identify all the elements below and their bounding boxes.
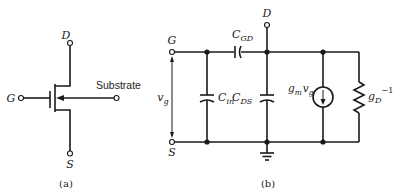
gm-vg-label: gmvg — [288, 82, 314, 97]
source-terminal — [68, 151, 73, 156]
substrate-label: Substrate — [96, 79, 141, 91]
substrate-terminal — [114, 96, 119, 101]
drain-label-b: D — [262, 7, 272, 20]
caption-a: (a) — [59, 178, 73, 189]
ground-icon — [260, 153, 274, 160]
gd-inverse-label: gD−1 — [368, 86, 393, 105]
source-terminal-b — [170, 140, 175, 145]
drain-terminal — [68, 41, 73, 46]
cgd-plate-right — [240, 46, 242, 58]
gate-label-b: G — [168, 34, 177, 47]
arrow-up-icon — [170, 56, 174, 62]
mosfet-figure: D G S Substrate (a) G S — [0, 0, 395, 196]
arrow-icon — [56, 95, 64, 101]
caption-b: (b) — [261, 178, 275, 189]
source-label-b: S — [168, 146, 176, 159]
vg-label: vg — [157, 91, 168, 106]
drain-label: D — [61, 29, 71, 42]
arrow-down-icon — [170, 132, 174, 138]
arrow-down-icon — [321, 99, 326, 105]
gate-terminal — [19, 96, 24, 101]
drain-terminal-b — [265, 23, 270, 28]
gate-label: G — [7, 92, 16, 105]
cgd-label: CGD — [232, 28, 254, 43]
drain-lead — [55, 46, 70, 87]
cds-label: CDS — [232, 91, 253, 106]
mosfet-symbol: D G S Substrate (a) — [7, 29, 142, 189]
equivalent-circuit: G S vg CGD Cin D — [157, 7, 393, 189]
gate-terminal-b — [170, 50, 175, 55]
source-label: S — [66, 158, 74, 171]
source-lead — [55, 110, 70, 151]
resistor-icon — [354, 82, 364, 113]
